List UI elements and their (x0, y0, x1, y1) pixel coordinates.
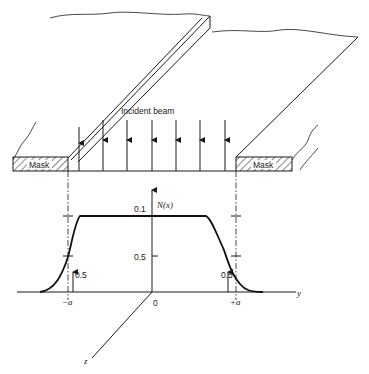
mask-right: Mask (236, 157, 292, 171)
mask-diffusion-diagram: Mask Mask Incident beam (0, 0, 369, 374)
z-axis-label: z (83, 356, 88, 366)
half-markers: 0.5 0.5 (73, 270, 233, 292)
incident-beam-label: Incident beam (121, 106, 174, 116)
half-left-label: 0.5 (75, 270, 87, 280)
half-right-label: 0.5 (221, 270, 233, 280)
plus-a-label: +a (230, 297, 241, 307)
right-mask-slab (212, 29, 358, 170)
minus-a-label: −a (62, 297, 73, 307)
left-mask-slab (13, 12, 210, 162)
origin-label: 0 (153, 298, 158, 308)
mask-left: Mask (13, 157, 68, 171)
n-axis-label: N(x) (156, 200, 173, 210)
tick-0-1-label: 0.1 (134, 204, 146, 214)
y-axis-label: y (296, 288, 301, 298)
mask-right-label: Mask (253, 160, 274, 170)
mask-left-label: Mask (29, 160, 50, 170)
tick-0-5-label: 0.5 (134, 252, 146, 262)
